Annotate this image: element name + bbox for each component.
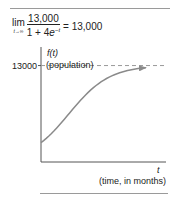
population-chart: 13000 f(t) (population) t (time, in mont… [0, 0, 178, 201]
y-axis-symbol: f(t) [47, 48, 58, 58]
x-axis-label: (time, in months) [99, 176, 166, 186]
bottom-divider [40, 193, 168, 194]
y-axis-label: (population) [46, 60, 94, 70]
y-tick-label-13000: 13000 [12, 61, 37, 71]
x-axis-symbol: t [157, 165, 160, 175]
population-curve [41, 68, 146, 143]
